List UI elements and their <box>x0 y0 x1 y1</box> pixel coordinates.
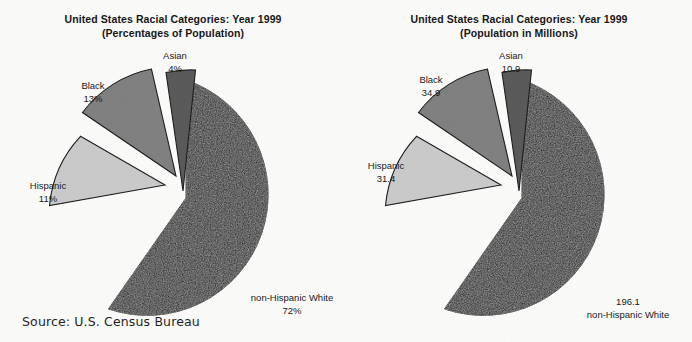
slice-label-non-hispanic-white-name: non-Hispanic White <box>568 309 688 322</box>
slice-label-black: Black 13% <box>56 80 130 105</box>
chart-panel-millions: United States Racial Categories: Year 19… <box>346 0 692 342</box>
slice-label-black: Black 34.9 <box>394 74 468 99</box>
slice-label-hispanic: Hispanic 31.4 <box>346 160 426 185</box>
slice-label-black-name: Black <box>419 74 442 85</box>
slice-label-non-hispanic-white-value: 196.1 <box>616 296 640 307</box>
slice-label-hispanic: Hispanic 11% <box>8 180 88 205</box>
slice-label-non-hispanic-white-name: non-Hispanic White <box>251 292 333 303</box>
slice-label-black-value: 13% <box>56 93 130 106</box>
slice-label-black-value: 34.9 <box>394 87 468 100</box>
slice-label-non-hispanic-white-value: 72% <box>238 305 346 318</box>
slice-label-asian-value: 4% <box>132 63 218 76</box>
slice-label-hispanic-value: 31.4 <box>346 173 426 186</box>
slice-label-hispanic-value: 11% <box>8 193 88 206</box>
slice-label-hispanic-name: Hispanic <box>368 160 404 171</box>
figure-page: United States Racial Categories: Year 19… <box>0 0 692 342</box>
slice-label-non-hispanic-white: non-Hispanic White 72% <box>238 292 346 317</box>
chart-panel-percentages: United States Racial Categories: Year 19… <box>0 0 346 342</box>
slice-label-asian-name: Asian <box>499 50 523 61</box>
slice-label-asian: Asian 10.9 <box>468 50 554 75</box>
slice-label-non-hispanic-white: 196.1 non-Hispanic White <box>568 296 688 321</box>
slice-label-hispanic-name: Hispanic <box>30 180 66 191</box>
slice-label-asian: Asian 4% <box>132 50 218 75</box>
slice-label-asian-name: Asian <box>163 50 187 61</box>
slice-label-asian-value: 10.9 <box>468 63 554 76</box>
slice-label-black-name: Black <box>81 80 104 91</box>
source-note: Source: U.S. Census Bureau <box>22 314 200 329</box>
